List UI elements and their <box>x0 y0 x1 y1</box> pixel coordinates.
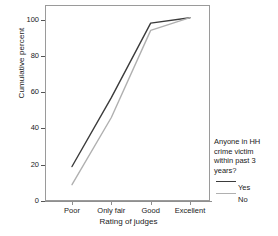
x-axis-line <box>45 201 212 202</box>
series-line-yes <box>72 18 190 167</box>
y-tick-label: 20 <box>17 161 39 169</box>
legend-item-label: No <box>238 195 248 204</box>
legend-item-no[interactable]: No <box>214 188 278 199</box>
y-tick-label: 0 <box>17 197 39 205</box>
legend: Anyone in HH crime victim within past 3 … <box>214 137 278 199</box>
legend-item-yes[interactable]: Yes <box>214 176 278 187</box>
y-tick-label: 80 <box>17 52 39 60</box>
legend-items: YesNo <box>214 176 278 199</box>
cumulative-percent-line-chart: Cumulative percent 100806040200 PoorOnly… <box>0 0 278 236</box>
x-tick-mark <box>190 201 191 205</box>
y-tick-label: 60 <box>17 88 39 96</box>
legend-title: Anyone in HH crime victim within past 3 … <box>214 137 278 175</box>
x-tick-mark <box>151 201 152 205</box>
series-line-no <box>72 18 190 185</box>
plot-series-canvas <box>45 5 210 201</box>
y-tick-label: 100 <box>17 16 39 24</box>
x-tick-mark <box>72 201 73 205</box>
legend-line-swatch <box>216 193 236 194</box>
x-tick-label: Excellent <box>160 206 220 215</box>
x-axis-title: Rating of judges <box>45 217 212 227</box>
x-tick-mark <box>111 201 112 205</box>
y-tick-label: 40 <box>17 124 39 132</box>
legend-line-swatch <box>216 181 236 182</box>
